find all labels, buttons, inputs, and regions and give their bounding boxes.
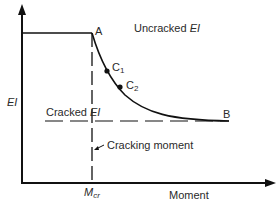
cracked-ei-italic: EI <box>90 106 100 118</box>
point-c1-label: C1 <box>112 62 124 75</box>
ei-curve <box>92 33 229 121</box>
y-axis-label: EI <box>7 97 17 108</box>
x-axis-arrow-icon <box>265 179 276 187</box>
uncracked-text: Uncracked <box>134 22 190 34</box>
uncracked-ei-italic: EI <box>190 22 200 34</box>
point-b-label: B <box>223 109 230 120</box>
c1-main: C <box>112 61 120 73</box>
x-axis-label: Moment <box>169 190 209 201</box>
mcr-main: M <box>84 186 93 198</box>
pointer-arrow-icon <box>94 146 99 150</box>
point-c2-label: C2 <box>126 80 138 93</box>
point-a-label: A <box>95 26 102 37</box>
cracked-text: Cracked <box>46 106 90 118</box>
point-c2 <box>117 84 122 89</box>
c2-main: C <box>126 79 134 91</box>
mcr-sub: cr <box>93 191 100 200</box>
c2-sub: 2 <box>134 84 138 93</box>
mcr-tick-label: Mcr <box>84 187 100 200</box>
cracked-ei-label: Cracked EI <box>46 107 100 118</box>
c1-sub: 1 <box>120 66 124 75</box>
point-c1 <box>104 68 109 73</box>
uncracked-ei-label: Uncracked EI <box>134 23 200 34</box>
cracking-moment-label: Cracking moment <box>107 140 193 151</box>
y-axis-arrow-icon <box>18 4 26 15</box>
